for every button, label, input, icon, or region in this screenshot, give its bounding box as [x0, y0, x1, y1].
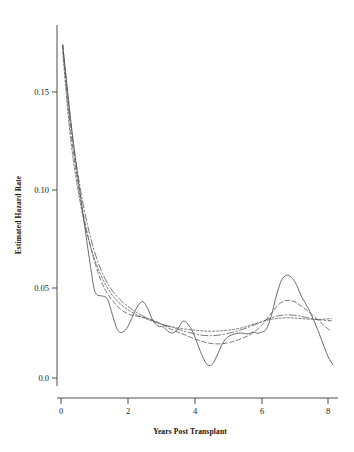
hazard-rate-chart: 0.15 0.10 0.05 0.0 0 2 4 6 8 Years Post … [0, 0, 354, 452]
y-tick-label-005: 0.05 [34, 283, 49, 293]
x-tick-label-0: 0 [59, 406, 63, 416]
hazard-rate-figure: 0.15 0.10 0.05 0.0 0 2 4 6 8 Years Post … [0, 0, 354, 452]
y-tick-label-010: 0.10 [34, 185, 49, 195]
y-tick-label-015: 0.15 [34, 87, 49, 97]
y-tick-label-000: 0.0 [38, 373, 49, 383]
chart-background [0, 0, 354, 452]
x-tick-label-8: 8 [326, 406, 330, 416]
x-axis-title: Years Post Transplant [153, 427, 227, 436]
x-tick-label-6: 6 [260, 406, 264, 416]
y-axis-title: Estimated Hazard Rate [14, 175, 23, 254]
x-tick-label-2: 2 [126, 406, 130, 416]
